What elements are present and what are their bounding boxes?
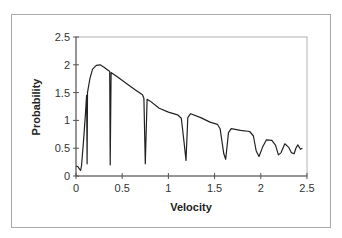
probability-series-line (76, 65, 302, 171)
x-tick-label: 0 (73, 182, 79, 194)
y-tick-label: 2 (64, 59, 70, 71)
x-axis: 00.511.522.5 (73, 173, 315, 194)
y-tick-label: 0 (64, 170, 70, 182)
y-axis: 00.511.522.5 (55, 31, 79, 182)
x-tick-label: 1.5 (207, 182, 222, 194)
x-tick-label: 2.5 (299, 182, 314, 194)
y-tick-label: 1.5 (55, 87, 70, 99)
y-tick-label: 0.5 (55, 142, 70, 154)
y-axis-title: Probability (30, 78, 42, 136)
y-tick-label: 2.5 (55, 31, 70, 43)
x-tick-label: 0.5 (115, 182, 130, 194)
x-tick-label: 1 (165, 182, 171, 194)
x-tick-label: 2 (258, 182, 264, 194)
x-axis-title: Velocity (170, 201, 212, 213)
line-chart: 00.511.522.5 00.511.522.5 Velocity Proba… (0, 0, 342, 238)
y-tick-label: 1 (64, 114, 70, 126)
